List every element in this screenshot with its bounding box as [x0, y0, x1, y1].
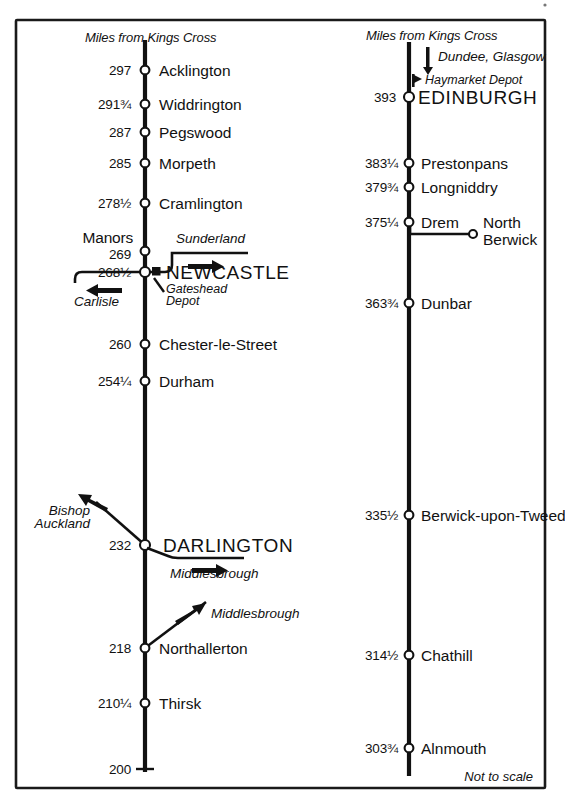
mileage-pegswood: 287: [109, 125, 131, 140]
station-label-prestonpans: Prestonpans: [421, 155, 508, 172]
mileage-acklington: 297: [109, 63, 131, 78]
station-label-widdrington: Widdrington: [159, 96, 242, 113]
arrow-dundee-glasgow: [423, 47, 433, 75]
station-label-longniddry: Longniddry: [421, 179, 498, 196]
branch-label-dundee-glasgow: Dundee, Glasgow: [438, 49, 547, 64]
mileage-chester-le-street: 260: [109, 337, 131, 352]
station-label-berwick-upon-tweed: Berwick-upon-Tweed: [421, 507, 565, 524]
station-label-darlington: DARLINGTON: [163, 535, 293, 556]
depot-marker-haymarket[interactable]: [414, 75, 422, 83]
station-label-edinburgh: EDINBURGH: [418, 87, 537, 108]
station-marker-chester-le-street[interactable]: [141, 340, 150, 349]
left-column-header: Miles from Kings Cross: [85, 30, 217, 45]
station-marker-north-berwick[interactable]: [469, 230, 477, 238]
station-marker-alnmouth[interactable]: [405, 744, 414, 753]
mileage-thirsk: 210¼: [98, 696, 132, 711]
mileage-cramlington: 278½: [98, 196, 131, 211]
mileage-dunbar: 363¾: [365, 296, 399, 311]
station-label-alnmouth: Alnmouth: [421, 740, 486, 757]
mileage-darlington: 232: [109, 538, 131, 553]
station-label-north: North: [483, 214, 521, 231]
branch-label-auckland: Auckland: [33, 516, 90, 531]
station-marker-berwick-upon-tweed[interactable]: [405, 511, 414, 520]
station-marker-longniddry[interactable]: [405, 183, 414, 192]
station-label-chester-le-street: Chester-le-Street: [159, 336, 278, 353]
mileage-berwick-upon-tweed: 335½: [365, 508, 398, 523]
railway-line-diagram: Miles from Kings Cross 297 Acklington 29…: [0, 0, 565, 803]
station-marker-cramlington[interactable]: [141, 199, 150, 208]
mileage-newcastle: 268½: [98, 265, 131, 280]
station-label-chathill: Chathill: [421, 647, 473, 664]
station-label-thirsk: Thirsk: [159, 695, 201, 712]
station-label-pegswood: Pegswood: [159, 124, 231, 141]
arrow-middlesbrough-northallerton: [175, 603, 206, 625]
station-marker-northallerton[interactable]: [141, 644, 150, 653]
station-marker-manors[interactable]: [141, 247, 150, 256]
station-marker-prestonpans[interactable]: [405, 159, 414, 168]
scan-speck: [543, 3, 546, 6]
mileage-chathill: 314½: [365, 648, 398, 663]
mileage-prestonpans: 383¼: [365, 156, 399, 171]
diagram-border: [16, 20, 545, 788]
mileage-northallerton: 218: [109, 641, 131, 656]
station-marker-chathill[interactable]: [405, 651, 414, 660]
station-marker-morpeth[interactable]: [141, 159, 150, 168]
mileage-manors: 269: [109, 247, 131, 262]
mileage-alnmouth: 303¾: [365, 741, 399, 756]
station-label-drem: Drem: [421, 214, 459, 231]
mileage-longniddry: 379¾: [365, 180, 399, 195]
depot-marker-gateshead[interactable]: [152, 267, 161, 276]
station-marker-drem[interactable]: [405, 218, 414, 227]
depot-label-haymarket: Haymarket Depot: [425, 73, 523, 87]
station-label-newcastle: NEWCASTLE: [166, 262, 290, 283]
station-label-northallerton: Northallerton: [159, 640, 248, 657]
mileage-drem: 375¼: [365, 215, 399, 230]
station-marker-dunbar[interactable]: [405, 299, 414, 308]
station-label-dunbar: Dunbar: [421, 295, 472, 312]
branch-label-carlisle: Carlisle: [74, 294, 119, 309]
mileage-200: 200: [109, 762, 131, 777]
station-marker-durham[interactable]: [141, 377, 150, 386]
station-label-cramlington: Cramlington: [159, 195, 243, 212]
mileage-widdrington: 291¾: [98, 97, 132, 112]
station-marker-pegswood[interactable]: [141, 128, 150, 137]
right-column-header: Miles from Kings Cross: [366, 28, 498, 43]
station-marker-widdrington[interactable]: [141, 100, 150, 109]
station-label-berwick: Berwick: [483, 231, 538, 248]
diagram-canvas: Miles from Kings Cross 297 Acklington 29…: [0, 0, 565, 803]
depot-leader-gateshead: [154, 278, 164, 292]
station-label-morpeth: Morpeth: [159, 155, 216, 172]
station-marker-thirsk[interactable]: [141, 699, 150, 708]
station-label-durham: Durham: [159, 373, 214, 390]
footnote-not-to-scale: Not to scale: [464, 769, 533, 784]
branch-label-middlesbrough-darlington: Middlesbrough: [170, 566, 259, 581]
mileage-edinburgh: 393: [374, 90, 396, 105]
branch-label-sunderland: Sunderland: [176, 231, 246, 246]
station-label-manors: Manors: [83, 229, 134, 246]
depot-stem-haymarket: [412, 74, 415, 87]
depot-label-gateshead-depot: Depot: [166, 294, 200, 308]
station-marker-edinburgh[interactable]: [404, 92, 414, 102]
mileage-durham: 254¼: [98, 374, 132, 389]
station-marker-acklington[interactable]: [141, 66, 150, 75]
station-label-acklington: Acklington: [159, 62, 231, 79]
station-marker-newcastle[interactable]: [140, 267, 150, 277]
branch-label-middlesbrough-northallerton: Middlesbrough: [211, 606, 300, 621]
mileage-morpeth: 285: [109, 156, 131, 171]
